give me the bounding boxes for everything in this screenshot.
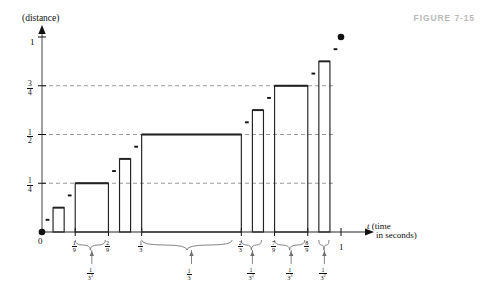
braces-group [75, 240, 329, 264]
plateau-step [120, 159, 131, 232]
x-tick-label-1-9: 19 [72, 237, 77, 253]
brace [275, 240, 305, 250]
fraction: 19 [72, 240, 77, 254]
figure-container: FIGURE 7-15 (distance) t (time in second… [0, 0, 483, 286]
x-tick-label-2-3: 23 [238, 237, 243, 253]
y-axis-arrow [38, 25, 45, 34]
fraction: 12 [27, 129, 33, 145]
fraction: 132 [286, 267, 293, 282]
brace-label-brace-7-9-8-9-a: 133 [247, 265, 254, 282]
brace-label-brace-1-3-2-3: 13 [187, 265, 192, 281]
brace-arrow [90, 251, 94, 256]
x-tick-label-7-9: 79 [271, 237, 276, 253]
brace [142, 240, 233, 250]
brace-label-brace-1-9-2-9: 132 [87, 265, 94, 282]
x-axis-title-line2: in seconds) [376, 231, 417, 240]
fraction: 34 [27, 80, 33, 96]
y-tick-label-1-2: 12 [27, 128, 33, 146]
fraction: 13 [187, 268, 192, 282]
brace-arrow [250, 251, 254, 256]
brace-label-brace-7-9-8-9-b: 132 [286, 265, 293, 282]
brace-arrow [322, 251, 326, 256]
x-axis-variable: t [367, 221, 370, 231]
y-axis-title: (distance) [22, 14, 59, 24]
x-tick-label-1-3: 13 [138, 237, 143, 253]
fraction: 133 [247, 267, 254, 282]
fraction: 13 [138, 240, 143, 254]
endpoint-dot [39, 229, 46, 236]
brace [75, 240, 105, 250]
brace-arrow [289, 251, 293, 256]
plateau-step [252, 110, 263, 232]
fraction: 132 [319, 267, 326, 282]
brace [241, 240, 261, 250]
x-tick-label-8-9: 89 [304, 237, 309, 253]
brace-label-brace-8-9-1: 132 [319, 265, 326, 282]
x-axis-title: t (time in seconds) [367, 222, 417, 240]
fraction: 79 [271, 240, 276, 254]
endpoint-dot [338, 34, 345, 41]
brace-arrow [189, 251, 193, 256]
brace [319, 240, 329, 250]
staircase-group [53, 61, 330, 232]
fraction: 29 [105, 240, 110, 254]
axes-group [38, 25, 374, 236]
plateau-step [75, 183, 108, 232]
fraction: 23 [238, 240, 243, 254]
plateau-step [275, 86, 308, 232]
x-tick-label-1: 1 [339, 237, 344, 253]
y-tick-label-1-4: 14 [27, 176, 33, 194]
y-tick-label-3-4: 34 [27, 79, 33, 97]
x-tick-label-2-9: 29 [105, 237, 110, 253]
origin-label: 0 [38, 237, 43, 246]
fraction: 132 [87, 267, 94, 282]
plateau-step [319, 61, 330, 232]
plateau-step [53, 208, 64, 232]
y-tick-label-1: 1 [30, 32, 35, 48]
fraction: 14 [27, 177, 33, 193]
fraction: 89 [304, 240, 309, 254]
